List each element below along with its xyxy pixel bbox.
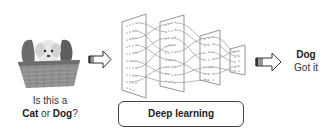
arrow-right-icon: [89, 51, 112, 68]
option-cat: Cat: [22, 108, 38, 119]
deep-learning-label: Deep learning: [148, 108, 214, 119]
question-or: or: [38, 108, 52, 119]
option-dog: Dog: [53, 108, 72, 119]
arrow-right-icon: [256, 53, 282, 71]
question-line-1: Is this a: [18, 94, 82, 107]
layer-2: [160, 15, 184, 92]
puppy-basket-image: [18, 40, 80, 88]
deep-learning-label-box: Deep learning: [118, 101, 244, 127]
result-status: Got it: [286, 61, 326, 74]
layer-1: [122, 14, 146, 98]
question-line-2: Cat or Dog?: [18, 107, 82, 120]
question-mark: ?: [72, 108, 78, 119]
question-text: Is this a Cat or Dog?: [18, 94, 82, 120]
neural-network-layers: [122, 14, 245, 98]
result-text: Dog Got it: [286, 48, 326, 74]
result-answer: Dog: [286, 48, 326, 61]
